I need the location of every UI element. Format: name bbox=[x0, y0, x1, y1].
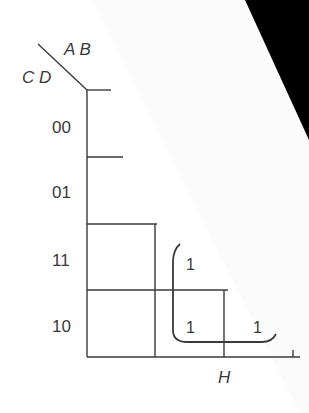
cell-value: 1 bbox=[253, 319, 262, 336]
row-label-01: 01 bbox=[52, 183, 71, 202]
cell-value: 1 bbox=[186, 319, 195, 336]
row-label-00: 00 bbox=[52, 118, 71, 137]
row-label-11: 11 bbox=[52, 251, 70, 270]
row-variable-label: C D bbox=[22, 68, 51, 87]
col-variable-label: A B bbox=[63, 40, 91, 59]
row-label-10: 10 bbox=[52, 317, 71, 336]
bottom-variable-label: H bbox=[218, 368, 231, 387]
karnaugh-map-diagram: A B C D 00 01 11 10 1 1 1 H bbox=[0, 0, 309, 413]
